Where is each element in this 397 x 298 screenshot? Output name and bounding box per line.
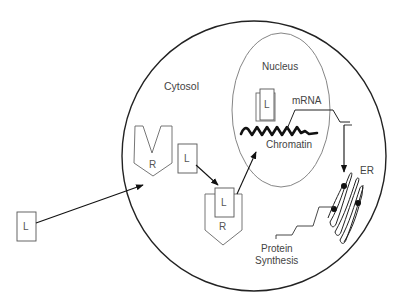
receptor-empty: R xyxy=(134,126,172,176)
ribosome-dot xyxy=(341,183,347,189)
cytosol-label: Cytosol xyxy=(164,80,199,92)
arrow-ligand-to-receptor xyxy=(36,185,143,223)
svg-text:L: L xyxy=(264,99,270,110)
mrna-label: mRNA xyxy=(292,95,322,106)
nascent-protein-chain xyxy=(276,207,334,239)
ligand-receptor-complex: L R xyxy=(205,188,242,245)
cell-diagram: Cytosol Nucleus mRNA Chromatin ER Protei… xyxy=(0,0,397,298)
protein-synthesis-label-line2: Synthesis xyxy=(255,255,298,266)
chromatin-strand xyxy=(241,127,317,135)
nucleus-label: Nucleus xyxy=(262,61,298,72)
arrow-ligand-to-complex xyxy=(196,165,218,185)
ribosome-dot xyxy=(355,200,361,206)
svg-text:R: R xyxy=(219,221,226,232)
svg-text:L: L xyxy=(23,221,29,232)
chromatin-label: Chromatin xyxy=(266,139,312,150)
nucleus-ligand-complex: L xyxy=(256,89,275,121)
ligand-cytosol: L xyxy=(178,144,197,173)
protein-synthesis-label-line1: Protein xyxy=(261,243,293,254)
svg-text:R: R xyxy=(149,159,156,170)
svg-text:L: L xyxy=(221,197,227,208)
er-label: ER xyxy=(360,165,374,176)
svg-text:L: L xyxy=(184,153,190,164)
ligand-extracellular: L xyxy=(17,212,36,241)
